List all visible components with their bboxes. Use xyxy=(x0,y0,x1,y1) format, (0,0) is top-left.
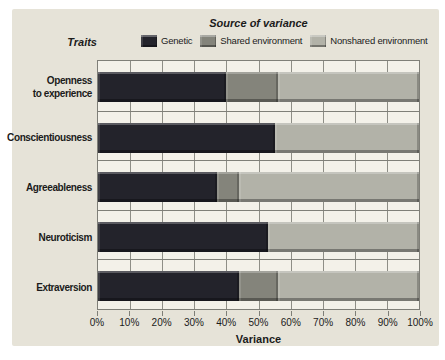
x-tick-mark-80% xyxy=(355,311,356,316)
legend-label-nonshared-environment: Nonshared environment xyxy=(330,35,427,46)
x-tick-mark-20% xyxy=(162,311,163,316)
legend-swatch-nonshared-environment xyxy=(310,35,326,47)
x-tick-label-20%: 20% xyxy=(144,317,180,328)
segment-shared-environment xyxy=(226,72,277,102)
row-band-openness-to-experience xyxy=(98,61,419,111)
segment-shared-environment xyxy=(239,271,278,301)
stacked-bar-extraversion xyxy=(98,271,419,301)
category-label-agreeableness: Agreeableness xyxy=(0,181,92,194)
legend-item-nonshared-environment: Nonshared environment xyxy=(310,35,427,47)
x-tick-label-80%: 80% xyxy=(337,317,373,328)
y-axis-title: Traits xyxy=(12,36,97,48)
x-tick-label-50%: 50% xyxy=(241,317,277,328)
legend-swatch-shared-environment xyxy=(200,35,216,47)
x-tick-mark-40% xyxy=(226,311,227,316)
x-tick-label-100%: 100% xyxy=(402,317,438,328)
row-band-conscientiousness xyxy=(98,111,419,161)
x-tick-label-60%: 60% xyxy=(273,317,309,328)
x-tick-mark-100% xyxy=(420,311,421,316)
chart-panel: Source of variance Traits GeneticShared … xyxy=(12,9,439,346)
row-band-neuroticism xyxy=(98,210,419,260)
chart-title: Source of variance xyxy=(97,17,420,29)
segment-genetic xyxy=(98,72,226,102)
plot-area xyxy=(97,60,420,310)
x-tick-label-90%: 90% xyxy=(370,317,406,328)
legend-item-genetic: Genetic xyxy=(141,35,192,47)
stacked-bar-agreeableness xyxy=(98,172,419,202)
x-tick-mark-50% xyxy=(259,311,260,316)
stacked-bar-openness-to-experience xyxy=(98,72,419,102)
x-tick-mark-60% xyxy=(291,311,292,316)
row-band-extraversion xyxy=(98,259,419,309)
segment-shared-environment xyxy=(217,172,239,202)
x-tick-label-30%: 30% xyxy=(176,317,212,328)
x-tick-mark-0% xyxy=(97,311,98,316)
x-tick-mark-30% xyxy=(194,311,195,316)
category-label-neuroticism: Neuroticism xyxy=(0,231,92,244)
segment-genetic xyxy=(98,271,239,301)
segment-genetic xyxy=(98,172,217,202)
legend-item-shared-environment: Shared environment xyxy=(200,35,302,47)
segment-nonshared-environment xyxy=(275,123,419,153)
x-tick-mark-70% xyxy=(323,311,324,316)
x-tick-label-10%: 10% xyxy=(111,317,147,328)
segment-genetic xyxy=(98,123,275,153)
segment-nonshared-environment xyxy=(278,271,419,301)
segment-nonshared-environment xyxy=(278,72,419,102)
legend-swatch-genetic xyxy=(141,35,157,47)
segment-genetic xyxy=(98,222,268,252)
x-tick-label-0%: 0% xyxy=(79,317,115,328)
stacked-bar-conscientiousness xyxy=(98,123,419,153)
stacked-bar-neuroticism xyxy=(98,222,419,252)
row-band-agreeableness xyxy=(98,160,419,210)
category-label-openness-to-experience: Openness to experience xyxy=(0,74,92,100)
x-tick-label-70%: 70% xyxy=(305,317,341,328)
x-tick-mark-10% xyxy=(129,311,130,316)
segment-nonshared-environment xyxy=(268,222,419,252)
x-tick-label-40%: 40% xyxy=(208,317,244,328)
legend-label-genetic: Genetic xyxy=(161,35,192,46)
legend-label-shared-environment: Shared environment xyxy=(220,35,302,46)
legend: GeneticShared environmentNonshared envir… xyxy=(141,34,428,47)
category-label-extraversion: Extraversion xyxy=(0,281,92,294)
segment-nonshared-environment xyxy=(239,172,419,202)
category-label-conscientiousness: Conscientiousness xyxy=(0,131,92,144)
x-tick-mark-90% xyxy=(388,311,389,316)
x-axis-title: Variance xyxy=(97,333,420,345)
